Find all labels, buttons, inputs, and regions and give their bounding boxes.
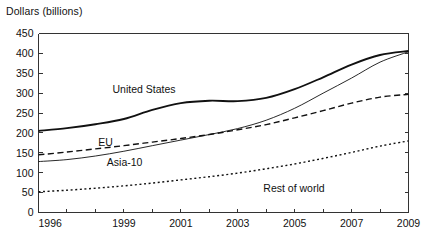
x-axis-tick-label: 2005: [283, 217, 307, 229]
chart-container: Dollars (billions) 050100150200250300350…: [0, 0, 422, 234]
y-axis-tick-label: 200: [16, 127, 34, 139]
series-line-asia-10: [39, 52, 409, 162]
x-axis-tick-label: 1996: [39, 217, 63, 229]
y-axis-tick-label: 0: [28, 206, 34, 218]
y-axis-tick-label: 400: [16, 47, 34, 59]
x-axis-tick-label: 2009: [397, 217, 421, 229]
x-axis-tick-label: 2001: [169, 217, 193, 229]
series-label-eu: EU: [98, 136, 113, 148]
y-axis-tick-label: 350: [16, 67, 34, 79]
y-axis-tick-label: 100: [16, 167, 34, 179]
y-axis-tick-label: 50: [22, 186, 34, 198]
y-axis-tick-label: 450: [16, 27, 34, 39]
line-chart-plot: 0501001502002503003504004501996199920012…: [0, 0, 422, 234]
axis-lines: [39, 34, 409, 213]
y-axis-tick-label: 250: [16, 107, 34, 119]
series-label-asia-10: Asia-10: [107, 156, 143, 168]
x-axis-tick-label: 2003: [226, 217, 250, 229]
series-line-united-states: [39, 51, 409, 131]
x-axis-tick-label: 2007: [340, 217, 364, 229]
series-line-rest-of-world: [39, 141, 409, 192]
series-label-rest-of-world: Rest of world: [263, 182, 324, 194]
x-axis-tick-label: 1999: [112, 217, 136, 229]
plot-border: [39, 34, 409, 213]
y-axis-tick-label: 150: [16, 147, 34, 159]
y-axis-tick-label: 300: [16, 87, 34, 99]
series-label-united-states: United States: [113, 83, 176, 95]
